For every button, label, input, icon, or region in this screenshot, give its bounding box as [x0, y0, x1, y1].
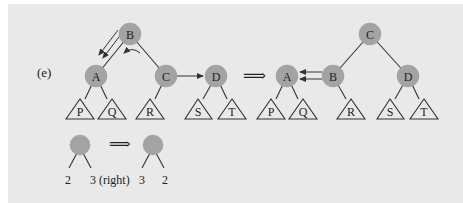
- svg-text:A: A: [283, 70, 292, 84]
- transform-arrow-icon: ⟹: [243, 67, 266, 84]
- tree-rotation-diagram: (e) P Q R S: [0, 0, 463, 203]
- subtree-q: Q: [98, 99, 126, 119]
- after-tree: P Q R S T C A B: [257, 23, 438, 119]
- legend-before-right: 3 (right): [90, 173, 130, 187]
- svg-text:P: P: [268, 105, 275, 119]
- subtree-p: P: [257, 99, 285, 119]
- svg-text:C: C: [162, 70, 170, 84]
- node-a: A: [85, 65, 107, 87]
- node-c: C: [155, 65, 177, 87]
- node-d: D: [205, 65, 227, 87]
- subtree-q: Q: [289, 99, 317, 119]
- subtree-r: R: [337, 99, 365, 119]
- svg-text:Q: Q: [108, 105, 117, 119]
- svg-text:A: A: [92, 70, 101, 84]
- subtree-r: R: [136, 99, 164, 119]
- svg-text:P: P: [77, 105, 84, 119]
- figure-label: (e): [37, 65, 51, 80]
- node-b: B: [119, 23, 141, 45]
- node-b: B: [322, 65, 344, 87]
- svg-text:R: R: [347, 105, 355, 119]
- svg-text:S: S: [387, 105, 394, 119]
- svg-text:R: R: [146, 105, 154, 119]
- subtree-t: T: [410, 99, 438, 119]
- node-c: C: [359, 23, 381, 45]
- legend-before-left: 2: [65, 173, 71, 187]
- svg-text:T: T: [420, 105, 428, 119]
- svg-text:Q: Q: [299, 105, 308, 119]
- node-a: A: [276, 65, 298, 87]
- legend-after-right: 2: [162, 173, 168, 187]
- svg-text:S: S: [195, 105, 202, 119]
- subtree-s: S: [185, 99, 212, 119]
- svg-text:B: B: [126, 28, 134, 42]
- before-tree: P Q R S T B A C: [66, 23, 246, 119]
- svg-text:C: C: [366, 28, 374, 42]
- svg-text:D: D: [404, 70, 413, 84]
- svg-text:T: T: [228, 105, 236, 119]
- legend-transform-arrow-icon: ⟹: [109, 136, 131, 152]
- subtree-p: P: [66, 99, 94, 119]
- subtree-s: S: [377, 99, 404, 119]
- subtree-t: T: [218, 99, 246, 119]
- legend-after: 3 2: [139, 135, 168, 187]
- svg-text:D: D: [212, 70, 221, 84]
- node-d: D: [397, 65, 419, 87]
- curved-rotation-arrow: [124, 50, 140, 54]
- svg-text:B: B: [329, 70, 337, 84]
- legend-after-left: 3: [139, 173, 145, 187]
